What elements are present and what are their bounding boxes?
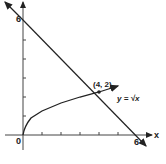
y-intercept-label: 6 — [16, 14, 21, 24]
x-intercept-label: 6 — [134, 137, 139, 147]
curve-sqrt-x — [23, 86, 118, 135]
curve-label: y = √x — [116, 94, 140, 103]
x-axis-label: x — [154, 130, 159, 140]
intersection-label: (4, 2) — [93, 80, 112, 89]
graph-canvas: 0 6 6 x (4, 2) y = √x — [0, 0, 166, 164]
origin-label: 0 — [16, 136, 21, 146]
intersection-point — [97, 90, 101, 94]
line-y-equals-6-minus-x — [23, 20, 146, 146]
